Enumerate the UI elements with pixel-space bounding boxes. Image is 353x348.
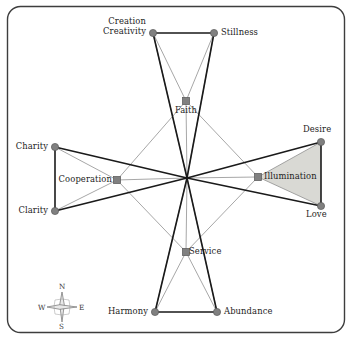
label-service: Service bbox=[189, 247, 221, 257]
node-clarity[interactable] bbox=[51, 207, 58, 214]
node-creation[interactable] bbox=[149, 29, 156, 36]
label-illumination: Illumination bbox=[264, 172, 317, 182]
compass-label-north: N bbox=[59, 282, 65, 291]
label-stillness: Stillness bbox=[221, 28, 258, 38]
compass-label-south: S bbox=[59, 322, 64, 331]
label-clarity: Clarity bbox=[10, 206, 48, 216]
label-love: Love bbox=[306, 210, 327, 220]
node-harmony[interactable] bbox=[151, 308, 158, 315]
node-stillness[interactable] bbox=[210, 29, 217, 36]
node-desire[interactable] bbox=[317, 138, 324, 145]
node-faith[interactable] bbox=[182, 97, 189, 104]
diagram-canvas: CreationCreativity Stillness Desire Love… bbox=[0, 0, 353, 348]
label-faith: Faith bbox=[168, 106, 204, 116]
label-cooperation: Cooperation bbox=[51, 175, 112, 185]
compass-label-west: W bbox=[38, 303, 45, 312]
label-creation: CreationCreativity bbox=[70, 17, 146, 36]
label-harmony: Harmony bbox=[96, 307, 148, 317]
label-desire: Desire bbox=[303, 125, 331, 135]
label-charity: Charity bbox=[8, 142, 48, 152]
compass-label-east: E bbox=[79, 303, 84, 312]
node-illumination[interactable] bbox=[254, 173, 261, 180]
node-charity[interactable] bbox=[51, 143, 58, 150]
label-abundance: Abundance bbox=[224, 307, 273, 317]
node-cooperation[interactable] bbox=[113, 176, 120, 183]
node-abundance[interactable] bbox=[213, 308, 220, 315]
